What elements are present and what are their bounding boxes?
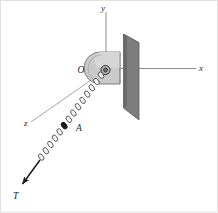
z-axis-label: z (23, 118, 28, 128)
mounting-plate-edge-highlight (124, 34, 128, 108)
collar-label-a: A (75, 123, 82, 133)
origin-label: O (78, 65, 85, 75)
y-axis-label: y (100, 3, 105, 13)
mechanics-figure: y x z O A T (0, 0, 218, 213)
figure-canvas: y x z O A T (0, 0, 218, 213)
figure-border (1, 1, 218, 213)
x-axis-label: x (198, 63, 203, 73)
hinge-inner-hole (104, 68, 108, 72)
tension-label-t: T (13, 191, 19, 201)
